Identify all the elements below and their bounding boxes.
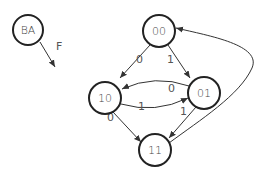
edge-label-10-01: 1 <box>138 100 145 113</box>
state-node-00-label: 00 <box>152 25 166 38</box>
state-diagram: BA F 0 1 0 1 0 1 00 10 01 <box>0 0 260 174</box>
edge-label-01-10: 0 <box>168 82 175 95</box>
edge-10-01 <box>121 98 188 108</box>
legend-edge-label: F <box>56 40 62 53</box>
state-node-10: 10 <box>89 82 121 114</box>
edge-label-00-01: 1 <box>167 53 174 66</box>
state-node-10-label: 10 <box>98 92 112 105</box>
edge-label-00-10: 0 <box>136 53 143 66</box>
edge-01-10 <box>122 81 189 89</box>
state-node-11-label: 11 <box>148 144 162 157</box>
state-node-01: 01 <box>188 77 220 109</box>
edge-label-01-11: 1 <box>180 105 187 118</box>
state-node-01-label: 01 <box>197 87 211 100</box>
state-node-11: 11 <box>139 134 171 166</box>
legend-node: BA <box>13 15 43 45</box>
legend-arrow <box>40 42 55 67</box>
edge-10-11 <box>113 112 141 142</box>
legend-node-label: BA <box>21 24 36 37</box>
legend: BA F <box>13 15 62 67</box>
state-node-00: 00 <box>143 15 175 47</box>
edge-00-10 <box>120 45 150 78</box>
